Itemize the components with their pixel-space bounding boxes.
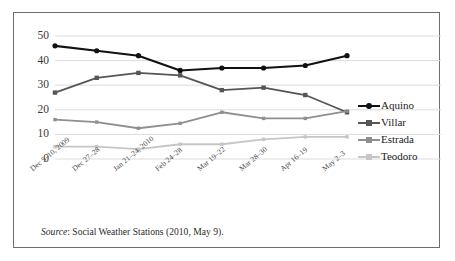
data-point (344, 53, 349, 58)
legend-item-villar: Villar (358, 114, 442, 131)
data-point (219, 65, 224, 70)
data-point (345, 135, 348, 138)
data-point (178, 68, 183, 73)
data-point (261, 65, 266, 70)
source-note: Source: Social Weather Stations (2010, M… (41, 226, 224, 237)
data-point (53, 118, 56, 121)
data-point (52, 43, 57, 48)
data-point (137, 127, 140, 130)
legend-marker-icon (358, 118, 380, 128)
legend-item-teodoro: Teodoro (358, 148, 442, 165)
legend-marker-icon (358, 152, 380, 162)
data-point (95, 120, 98, 123)
legend-item-aquino: Aquino (358, 97, 442, 114)
legend-marker-icon (358, 135, 380, 145)
legend-marker-icon (358, 101, 380, 111)
data-point (136, 71, 140, 75)
source-label: Source (41, 226, 67, 237)
data-point (178, 143, 181, 146)
data-point (304, 117, 307, 120)
series-line (55, 111, 347, 128)
y-tick-label: 40 (23, 55, 49, 67)
data-point (304, 135, 307, 138)
data-point (178, 122, 181, 125)
series-estrada (53, 109, 348, 130)
data-point (262, 138, 265, 141)
legend-label: Villar (381, 117, 406, 128)
series-villar (53, 71, 349, 115)
chart-legend: AquinoVillarEstradaTeodoro (358, 97, 442, 165)
y-tick-label: 20 (23, 104, 49, 116)
data-point (220, 88, 224, 92)
series-aquino (52, 43, 349, 73)
legend-label: Estrada (381, 134, 414, 145)
data-point (94, 48, 99, 53)
data-point (220, 111, 223, 114)
data-point (53, 90, 57, 94)
y-tick-label: 50 (23, 30, 49, 42)
figure-frame: 01020304050 Dec 5–10, 2009Dec 27–28Jan 2… (13, 12, 440, 248)
legend-item-estrada: Estrada (358, 131, 442, 148)
y-tick-label: 30 (23, 79, 49, 91)
y-tick-label: 10 (23, 128, 49, 140)
data-point (303, 93, 307, 97)
data-point (262, 117, 265, 120)
data-point (303, 63, 308, 68)
data-point (178, 73, 182, 77)
data-point (95, 76, 99, 80)
data-point (345, 109, 348, 112)
legend-label: Teodoro (381, 151, 418, 162)
data-point (261, 85, 265, 89)
source-text: : Social Weather Stations (2010, May 9). (67, 226, 223, 237)
legend-label: Aquino (381, 100, 414, 111)
data-point (136, 53, 141, 58)
